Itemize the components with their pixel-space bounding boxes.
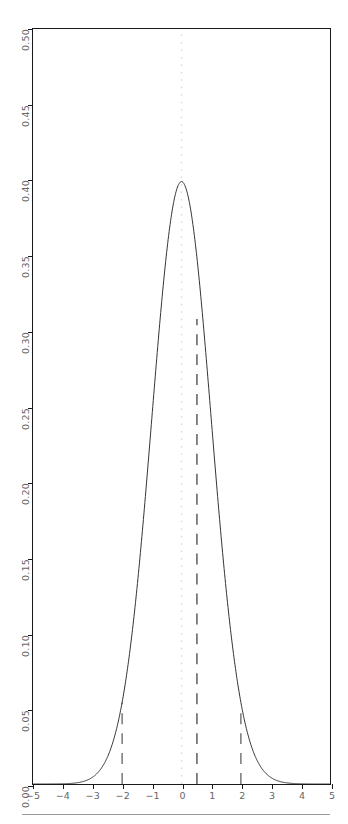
x-axis-tick-label: 1 bbox=[209, 791, 215, 801]
x-axis-tick bbox=[302, 784, 303, 789]
y-axis-tick-label: 0.20 bbox=[21, 483, 31, 505]
y-axis-tick-label: 0.40 bbox=[21, 180, 31, 202]
y-axis-tick-label: 0.10 bbox=[21, 635, 31, 657]
footer-divider bbox=[22, 814, 330, 815]
x-axis-tick bbox=[93, 784, 94, 789]
x-axis-tick-label: 5 bbox=[329, 791, 335, 801]
x-axis-tick bbox=[242, 784, 243, 789]
x-axis-tick-label: −5 bbox=[26, 791, 40, 801]
y-axis-tick-label: 0.15 bbox=[21, 559, 31, 581]
density-curve-svg bbox=[33, 29, 330, 784]
chart-page: 0.000.050.100.150.200.250.300.350.400.45… bbox=[0, 0, 348, 824]
x-axis-tick bbox=[123, 784, 124, 789]
y-axis-tick-label: 0.30 bbox=[21, 332, 31, 354]
x-axis-tick-label: 0 bbox=[179, 791, 185, 801]
x-axis-tick bbox=[332, 784, 333, 789]
x-axis-tick-label: −4 bbox=[56, 791, 70, 801]
x-axis-tick bbox=[33, 784, 34, 789]
x-axis-tick bbox=[153, 784, 154, 789]
x-axis-tick-label: −3 bbox=[86, 791, 100, 801]
x-axis-tick bbox=[63, 784, 64, 789]
y-axis-tick-label: 0.50 bbox=[21, 29, 31, 51]
x-axis-tick-label: 2 bbox=[239, 791, 245, 801]
x-axis-tick-label: 4 bbox=[299, 791, 305, 801]
vertical-lines-group bbox=[122, 29, 241, 784]
y-axis-tick-label: 0.05 bbox=[21, 710, 31, 732]
y-axis-tick-label: 0.45 bbox=[21, 105, 31, 127]
plot-area bbox=[33, 29, 330, 784]
plot-frame: 0.000.050.100.150.200.250.300.350.400.45… bbox=[32, 28, 331, 785]
x-axis-tick bbox=[272, 784, 273, 789]
y-axis-tick-label: 0.25 bbox=[21, 408, 31, 430]
y-axis-tick-label: 0.35 bbox=[21, 256, 31, 278]
x-axis-tick-label: −1 bbox=[145, 791, 159, 801]
x-axis-tick-label: −2 bbox=[115, 791, 129, 801]
x-axis-tick bbox=[212, 784, 213, 789]
x-axis-tick-label: 3 bbox=[269, 791, 275, 801]
x-axis-tick bbox=[183, 784, 184, 789]
